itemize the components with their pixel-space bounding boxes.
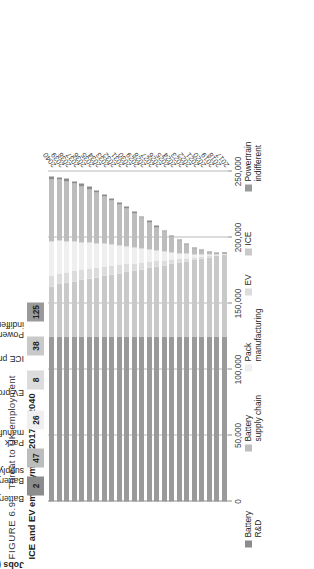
chart-bar — [177, 239, 182, 501]
bar-segment — [117, 204, 122, 245]
bar-segment — [72, 183, 77, 241]
axis-tick-label: 150,000 — [234, 288, 243, 318]
bar-segment — [139, 216, 144, 218]
bar-segment — [154, 250, 159, 261]
bar-segment — [147, 336, 152, 501]
bar-segment — [214, 336, 219, 501]
bar-segment — [154, 336, 159, 501]
jobs-value-box: 8 — [27, 370, 44, 389]
chart-bar — [79, 183, 84, 501]
chart-bar — [57, 177, 62, 501]
figure-number: FIGURE 6.9 — [6, 501, 17, 559]
bar-segment — [64, 178, 69, 181]
chart-plot-area: 050,000100,000150,000200,000250,00020172… — [48, 171, 228, 501]
legend-item: ICE — [244, 231, 254, 255]
bar-segment — [109, 200, 114, 244]
jobs-value-box: 125 — [27, 302, 44, 321]
chart-bar — [72, 181, 77, 501]
bar-segment — [132, 211, 137, 213]
bar-segment — [109, 244, 114, 265]
bar-segment — [177, 262, 182, 336]
chart-bar — [162, 230, 167, 501]
bar-segment — [117, 245, 122, 264]
legend-label: Powertrainindifferent — [244, 141, 263, 181]
bar-segment — [199, 250, 204, 251]
bar-segment — [147, 267, 152, 336]
bar-segment — [147, 220, 152, 222]
bar-segment — [102, 196, 107, 244]
chart-bar — [94, 190, 99, 501]
bar-segment — [109, 274, 114, 336]
jobs-value-box: 47 — [27, 448, 44, 467]
axis-tick-label: 200,000 — [234, 222, 243, 252]
axis-tick — [228, 236, 232, 237]
bar-segment — [139, 248, 144, 262]
bar-segment — [214, 255, 219, 336]
bar-segment — [162, 336, 167, 501]
bar-segment — [132, 336, 137, 501]
bar-segment — [207, 251, 212, 252]
chart-bar — [49, 176, 54, 501]
chart-bar — [102, 194, 107, 501]
bar-segment — [109, 198, 114, 200]
bar-segment — [154, 227, 159, 250]
bar-segment — [177, 336, 182, 501]
chart-bar — [199, 250, 204, 501]
bar-segment — [169, 263, 174, 336]
jobs-summary-header: Jobs (000s) in 2040 — [0, 559, 24, 569]
bar-segment — [177, 258, 182, 262]
jobs-value-label: EV production — [0, 387, 24, 397]
legend-item: Batterysupply chain — [244, 394, 263, 451]
bar-segment — [154, 260, 159, 266]
bar-segment — [79, 186, 84, 242]
jobs-value-label: Packmanufacturing — [0, 427, 24, 447]
gridline — [48, 170, 228, 171]
bar-segment — [124, 336, 129, 501]
bar-segment — [87, 336, 92, 501]
bar-segment — [184, 261, 189, 336]
bar-segment — [87, 189, 92, 242]
bar-segment — [124, 263, 129, 271]
legend-label: BatteryR&D — [244, 510, 263, 537]
bar-segment — [132, 213, 137, 247]
legend-swatch — [245, 540, 252, 547]
bar-segment — [117, 336, 122, 501]
bar-segment — [109, 265, 114, 274]
jobs-value-box: 38 — [27, 336, 44, 355]
bar-segment — [147, 261, 152, 267]
chart-bar — [207, 251, 212, 501]
bar-segment — [147, 222, 152, 249]
bar-segment — [79, 183, 84, 186]
bar-segment — [102, 275, 107, 336]
bar-segment — [117, 273, 122, 336]
chart-bar — [109, 198, 114, 501]
bar-segment — [57, 240, 62, 272]
bar-segment — [132, 270, 137, 336]
bar-segment — [147, 249, 152, 261]
bar-segment — [49, 336, 54, 501]
bar-segment — [177, 239, 182, 240]
bar-segment — [49, 286, 54, 336]
bar-segment — [169, 252, 174, 259]
bar-segment — [162, 265, 167, 336]
bar-segment — [192, 336, 197, 501]
chart-bar — [184, 243, 189, 501]
bar-segment — [207, 257, 212, 336]
jobs-value-label: Battery supply chain — [0, 465, 24, 485]
bar-segment — [192, 247, 197, 248]
bar-segment — [57, 283, 62, 336]
bar-segment — [222, 336, 227, 501]
bar-segment — [94, 277, 99, 336]
jobs-value-box: 26 — [27, 410, 44, 429]
bar-segment — [139, 217, 144, 247]
bar-segment — [72, 336, 77, 501]
chart-bar — [64, 178, 69, 501]
bar-segment — [124, 206, 129, 208]
bar-segment — [49, 176, 54, 179]
bar-segment — [64, 241, 69, 272]
jobs-value-label: ICE production — [0, 353, 24, 363]
bar-segment — [79, 336, 84, 501]
bar-segment — [79, 279, 84, 336]
bar-segment — [169, 259, 174, 263]
bar-segment — [79, 269, 84, 279]
